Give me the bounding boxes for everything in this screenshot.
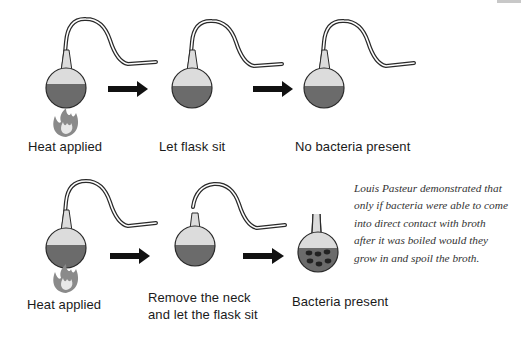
flask-icon: [173, 184, 285, 275]
arrow-right-icon: [253, 81, 293, 97]
flask-icon: [302, 21, 414, 116]
step-label-let-flask-sit: Let flask sit: [159, 138, 225, 155]
step-label-remove-neck-line2: and let the flask sit: [148, 306, 258, 323]
note-line: after it was boiled would they: [354, 232, 519, 249]
flask-icon: [170, 21, 282, 116]
step-label-heat-applied-2: Heat applied: [27, 296, 101, 313]
flame-icon: [53, 108, 78, 137]
pasteur-experiment-diagram: Heat applied Let flask sit No bacteria p…: [0, 0, 521, 337]
explanation-note: Louis Pasteur demonstrated that only if …: [354, 180, 519, 267]
step-label-bacteria-present: Bacteria present: [292, 293, 388, 310]
flask-icon: [296, 214, 340, 278]
note-line: into direct contact with broth: [354, 215, 519, 232]
arrow-right-icon: [243, 248, 284, 264]
step-label-remove-neck-line1: Remove the neck: [148, 289, 251, 306]
step-label-no-bacteria: No bacteria present: [295, 138, 410, 155]
arrow-right-icon: [108, 81, 148, 97]
flask-icon: [44, 19, 156, 114]
note-line: only if bacteria were able to come: [354, 197, 519, 214]
note-line: grow in and spoil the broth.: [354, 250, 519, 267]
arrow-right-icon: [110, 248, 150, 264]
note-line: Louis Pasteur demonstrated that: [354, 180, 519, 197]
step-label-heat-applied: Heat applied: [28, 138, 102, 155]
flame-icon: [53, 264, 78, 293]
